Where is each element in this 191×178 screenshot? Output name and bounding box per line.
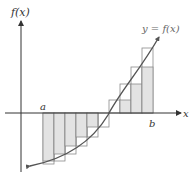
inner-rectangle-2 — [54, 113, 65, 154]
inner-rectangle-8 — [120, 100, 131, 113]
inner-rectangle-1 — [43, 113, 54, 161]
inner-rectangle-3 — [65, 113, 76, 146]
curve-label: y = f(x) — [141, 23, 180, 34]
inner-rectangle-10 — [142, 67, 153, 113]
b-label: b — [149, 118, 155, 129]
a-label: a — [40, 101, 46, 112]
riemann-rectangles — [43, 48, 153, 164]
riemann-sum-diagram: f(x) y = f(x) a b x — [0, 0, 191, 178]
y-axis-label: f(x) — [10, 6, 30, 19]
inner-rectangle-5 — [87, 113, 98, 127]
inner-rectangle-9 — [131, 84, 142, 113]
diagram-canvas: f(x) y = f(x) a b x — [0, 0, 191, 178]
x-axis-label: x — [183, 108, 189, 119]
inner-rectangle-4 — [76, 113, 87, 137]
